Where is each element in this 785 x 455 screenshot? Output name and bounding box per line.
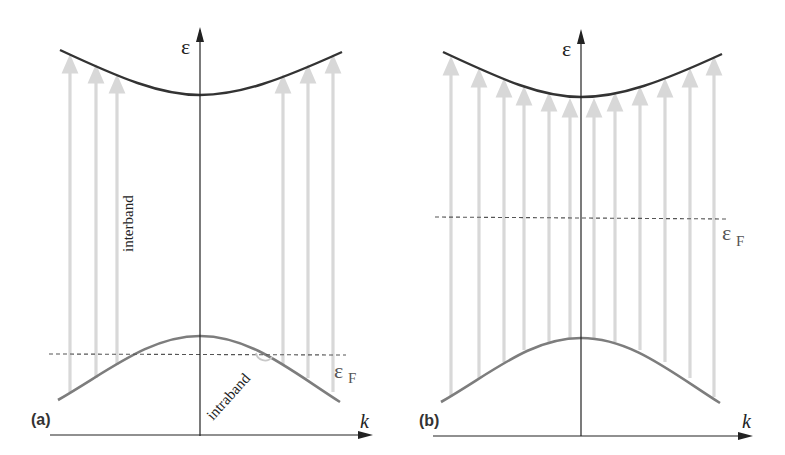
fermi-sub-a: F: [348, 370, 356, 386]
band-diagram: ε k ε F interband intraband (a): [0, 0, 785, 455]
panel-label-b: (b): [419, 412, 439, 429]
x-axis-arrow-b-icon: [738, 432, 753, 440]
fermi-level-a: [49, 354, 346, 355]
panel-b: ε k ε F (b): [419, 29, 753, 440]
x-axis-label-a: k: [360, 410, 370, 432]
panel-a: ε k ε F interband intraband (a): [31, 27, 373, 439]
panel-label-a: (a): [31, 411, 51, 428]
conduction-band-b: [443, 52, 722, 97]
y-axis-label-a: ε: [181, 34, 190, 59]
interband-label: interband: [120, 195, 136, 252]
fermi-label-b: ε: [722, 220, 731, 245]
y-axis-arrow-a-icon: [196, 27, 204, 42]
interband-arrows: [64, 58, 339, 392]
intraband-label: intraband: [203, 370, 253, 423]
y-axis-label-b: ε: [562, 36, 571, 61]
conduction-band-a: [60, 50, 342, 95]
interband-arrows-b: [445, 60, 720, 397]
fermi-label-a: ε: [334, 358, 343, 383]
x-axis-label-b: k: [742, 410, 752, 432]
y-axis-arrow-b-icon: [577, 29, 585, 44]
valence-band-a: [58, 336, 340, 402]
fermi-sub-b: F: [736, 233, 744, 249]
x-axis-arrow-a-icon: [358, 431, 373, 439]
